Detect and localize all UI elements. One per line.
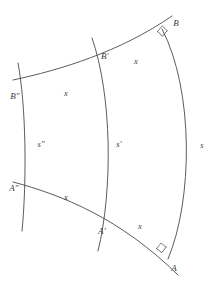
label-segment-x-bottom-right: x — [138, 222, 142, 231]
right-angle-at-b-icon — [158, 31, 168, 37]
label-point-a-prime: A′ — [98, 227, 106, 236]
geodesic-diagram: B B′ B″ A A′ A″ s s′ s″ x x x x — [0, 0, 216, 286]
transversal-bottom — [13, 182, 178, 275]
label-point-b-prime: B′ — [101, 52, 109, 61]
diagram-canvas — [0, 0, 216, 286]
label-segment-x-top-left: x — [64, 89, 68, 98]
label-point-a: A — [171, 264, 177, 273]
right-angle-at-a-icon-closure — [157, 243, 167, 249]
label-segment-x-bottom-left: x — [64, 193, 68, 202]
label-arc-s-double-prime: s″ — [37, 140, 44, 149]
label-point-a-double-prime: A″ — [9, 184, 19, 193]
label-point-b: B — [173, 19, 179, 28]
label-segment-x-top-right: x — [134, 57, 138, 66]
arc-s-double-prime — [18, 63, 25, 231]
label-point-b-double-prime: B″ — [10, 92, 20, 101]
right-angle-at-a-icon — [157, 247, 167, 253]
arc-s — [162, 29, 186, 259]
transversal-top — [13, 16, 172, 80]
label-arc-s-prime: s′ — [116, 140, 122, 149]
label-arc-s: s — [200, 141, 204, 150]
